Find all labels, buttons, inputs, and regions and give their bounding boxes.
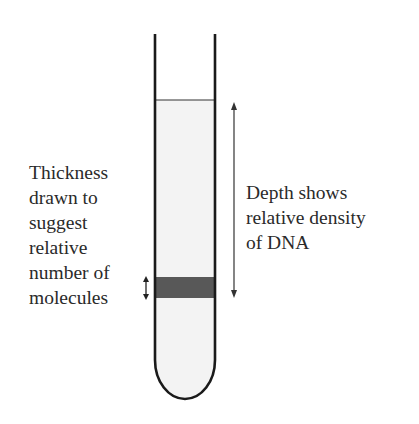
dna-band xyxy=(156,277,214,298)
thickness-label-line: molecules xyxy=(29,285,110,310)
depth-label-line: of DNA xyxy=(246,230,366,255)
thickness-label-line: number of xyxy=(29,260,110,285)
thickness-label-line: drawn to xyxy=(29,185,110,210)
depth-label-line: relative density xyxy=(246,205,366,230)
depth-arrow-icon xyxy=(231,102,237,298)
thickness-arrow-icon xyxy=(143,276,149,300)
thickness-label-line: relative xyxy=(29,235,110,260)
thickness-label: Thickness drawn to suggest relative numb… xyxy=(29,160,110,310)
liquid-fill xyxy=(156,100,214,398)
thickness-label-line: Thickness xyxy=(29,160,110,185)
depth-label: Depth shows relative density of DNA xyxy=(246,180,366,255)
thickness-label-line: suggest xyxy=(29,210,110,235)
depth-label-line: Depth shows xyxy=(246,180,366,205)
